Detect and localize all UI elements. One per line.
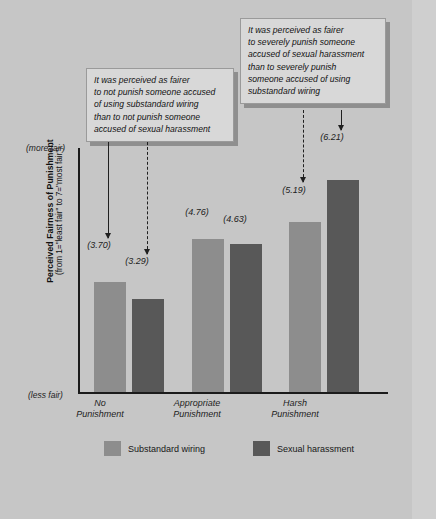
- bar-value-label: (3.29): [114, 256, 160, 266]
- callout-left-line-1: It was perceived as fairer: [94, 74, 226, 86]
- callout-right-line-3: accused of sexual harassment: [248, 48, 378, 60]
- callout-right-line-6: substandard wiring: [248, 85, 378, 97]
- callout-left: It was perceived as fairer to not punish…: [86, 68, 234, 142]
- page-sheet: (more fair) (less fair) Perceived Fairne…: [0, 0, 412, 519]
- bar-value-label: (4.63): [212, 214, 258, 224]
- arrow-shaft: [147, 142, 148, 254]
- bar-value-label: (6.21): [309, 132, 355, 142]
- legend-label: Substandard wiring: [128, 444, 205, 454]
- arrow-head: [338, 125, 344, 131]
- bar-substandard-appropriate-punishment[interactable]: [192, 239, 224, 392]
- legend-swatch-icon: [104, 441, 121, 456]
- category-line-2: Punishment: [240, 409, 350, 420]
- arrow-solid-to-harassment-harsh-punishment: [341, 110, 342, 130]
- x-axis-category-harsh-punishment: Harsh Punishment: [240, 398, 350, 420]
- arrow-shaft: [303, 110, 304, 182]
- y-axis-title: Perceived Fairness of Punishment: [45, 139, 56, 283]
- category-line-1: Appropriate: [142, 398, 252, 409]
- y-axis-title-group: Perceived Fairness of Punishment (from 1…: [40, 111, 70, 311]
- figure-grouped-bar-chart: (more fair) (less fair) Perceived Fairne…: [0, 0, 412, 519]
- chart-legend: Substandard wiring Sexual harassment: [104, 441, 354, 456]
- callout-right-line-5: someone accused of using: [248, 73, 378, 85]
- x-axis-category-no-punishment: No Punishment: [45, 398, 155, 420]
- bar-harassment-no-punishment[interactable]: [132, 299, 164, 392]
- arrow-dashed-to-harassment-no-punishment: [147, 142, 148, 254]
- x-axis-line: [78, 392, 388, 394]
- category-line-1: Harsh: [240, 398, 350, 409]
- callout-right: It was perceived as fairer to severely p…: [240, 18, 386, 104]
- arrow-head: [300, 177, 306, 183]
- bar-harassment-harsh-punishment[interactable]: [327, 180, 359, 392]
- category-line-2: Punishment: [45, 409, 155, 420]
- plot-area: [80, 148, 388, 392]
- legend-label: Sexual harassment: [277, 444, 354, 454]
- arrow-solid-to-substandard-no-punishment: [108, 142, 109, 238]
- bar-harassment-appropriate-punishment[interactable]: [230, 244, 262, 392]
- bar-value-label: (3.70): [76, 240, 122, 250]
- legend-item-substandard-wiring[interactable]: Substandard wiring: [104, 441, 205, 456]
- callout-left-line-4: than to not punish someone: [94, 111, 226, 123]
- callout-right-line-4: than to severely punish: [248, 61, 378, 73]
- callout-right-line-1: It was perceived as fairer: [248, 24, 378, 36]
- callout-left-line-5: accused of sexual harassment: [94, 123, 226, 135]
- legend-swatch-icon: [253, 441, 270, 456]
- bar-substandard-harsh-punishment[interactable]: [289, 222, 321, 392]
- callout-left-line-3: of using substandard wiring: [94, 98, 226, 110]
- callout-right-line-2: to severely punish someone: [248, 36, 378, 48]
- callout-left-line-2: to not punish someone accused: [94, 86, 226, 98]
- legend-item-sexual-harassment[interactable]: Sexual harassment: [253, 441, 354, 456]
- bar-substandard-no-punishment[interactable]: [94, 282, 126, 392]
- arrow-head: [144, 249, 150, 255]
- category-line-1: No: [45, 398, 155, 409]
- category-line-2: Punishment: [142, 409, 252, 420]
- x-axis-category-appropriate-punishment: Appropriate Punishment: [142, 398, 252, 420]
- arrow-head: [105, 233, 111, 239]
- arrow-dashed-to-substandard-harsh-punishment: [303, 110, 304, 182]
- y-axis-subtitle: (from 1="least fair" to 7="most fair"): [55, 147, 65, 275]
- bar-value-label: (5.19): [271, 185, 317, 195]
- arrow-shaft: [108, 142, 109, 238]
- page-right-margin: [412, 0, 436, 519]
